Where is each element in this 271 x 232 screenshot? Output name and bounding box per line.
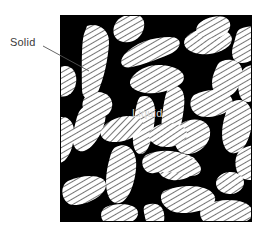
figure-root: Solid Liquid [0, 0, 271, 232]
solid-particle [101, 204, 138, 222]
liquid-label: Liquid [132, 107, 163, 119]
solid-label: Solid [10, 36, 35, 48]
